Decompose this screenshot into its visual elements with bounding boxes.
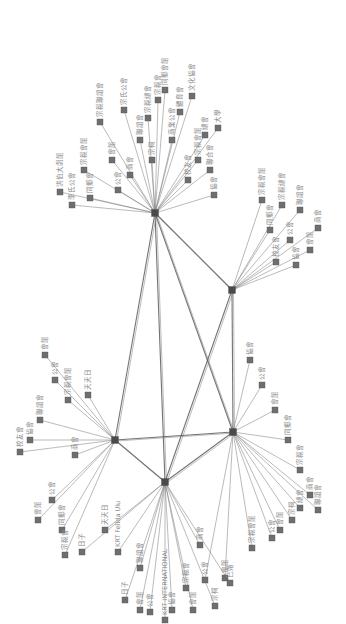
edge: [232, 262, 276, 290]
node[interactable]: [122, 597, 128, 603]
node-label: 會館: [188, 591, 197, 605]
node[interactable]: [57, 189, 63, 195]
node[interactable]: [289, 517, 295, 523]
node[interactable]: [293, 262, 299, 268]
node[interactable]: [185, 177, 191, 183]
node[interactable]: [259, 382, 265, 388]
node[interactable]: [121, 107, 127, 113]
node[interactable]: [202, 132, 208, 138]
node-label: 會館: [33, 501, 42, 515]
node[interactable]: [147, 609, 153, 615]
node[interactable]: [269, 535, 275, 541]
node[interactable]: [69, 202, 75, 208]
node[interactable]: [272, 407, 278, 413]
node[interactable]: [162, 87, 168, 93]
node[interactable]: [137, 607, 143, 613]
node[interactable]: [149, 157, 155, 163]
node[interactable]: [297, 467, 303, 473]
node-label: 文化協會: [187, 63, 196, 91]
node[interactable]: [65, 397, 71, 403]
node[interactable]: [52, 377, 58, 383]
node-label: 校友會: [271, 236, 280, 257]
node[interactable]: [102, 527, 108, 533]
node[interactable]: [190, 607, 196, 613]
node[interactable]: [37, 417, 43, 423]
node[interactable]: [62, 552, 68, 558]
node[interactable]: [249, 545, 255, 551]
node[interactable]: [215, 125, 221, 131]
node[interactable]: [197, 542, 203, 548]
node[interactable]: [307, 247, 313, 253]
hub-node[interactable]: [162, 479, 169, 486]
node[interactable]: [211, 192, 217, 198]
node[interactable]: [307, 492, 313, 498]
node[interactable]: [145, 115, 151, 121]
node-label: 商會: [305, 476, 314, 490]
node[interactable]: [72, 452, 78, 458]
hub-node[interactable]: [230, 429, 237, 436]
node-label: 校友會: [183, 154, 192, 175]
node[interactable]: [267, 227, 273, 233]
hub-node[interactable]: [229, 287, 236, 294]
node[interactable]: [297, 207, 303, 213]
hub-node[interactable]: [152, 210, 159, 217]
node[interactable]: [115, 187, 121, 193]
node[interactable]: [162, 617, 168, 623]
node[interactable]: [183, 585, 189, 591]
node[interactable]: [85, 392, 91, 398]
node[interactable]: [273, 259, 279, 265]
node[interactable]: [227, 580, 233, 586]
edge: [165, 482, 215, 606]
node-label: 日子: [78, 533, 86, 547]
node-label: 協會: [245, 341, 254, 355]
labels-layer: 洪伯大劇館李氏公會宗親會館同鄉會宗親聯誼會會館公會宗氏公會商會聯誼會宗親總會宗祠…: [15, 57, 322, 615]
node-label: 天天日: [84, 369, 92, 390]
node[interactable]: [87, 195, 93, 201]
node[interactable]: [207, 167, 213, 173]
edge: [88, 395, 115, 440]
node-label: 校友會: [15, 426, 24, 447]
node-label: 聯合會: [205, 144, 214, 165]
hub-link-edge: [117, 214, 157, 441]
node[interactable]: [315, 507, 321, 513]
node-label: 聯誼會: [295, 184, 304, 205]
node-label: KRT Felida Ulu: [114, 501, 122, 547]
node[interactable]: [277, 527, 283, 533]
hub-link-edge: [115, 432, 233, 440]
edge: [232, 265, 296, 290]
node[interactable]: [155, 97, 161, 103]
node[interactable]: [285, 437, 291, 443]
node[interactable]: [259, 197, 265, 203]
node[interactable]: [315, 225, 321, 231]
node[interactable]: [97, 119, 103, 125]
node[interactable]: [127, 172, 133, 178]
hub-node[interactable]: [112, 437, 119, 444]
node[interactable]: [42, 352, 48, 358]
node[interactable]: [195, 157, 201, 163]
node-label: 商會: [195, 526, 204, 540]
node-label: 宗親會: [295, 444, 304, 465]
node[interactable]: [137, 137, 143, 143]
node[interactable]: [49, 497, 55, 503]
node[interactable]: [137, 565, 143, 571]
node[interactable]: [115, 549, 121, 555]
node[interactable]: [27, 437, 33, 443]
node[interactable]: [17, 449, 23, 455]
node[interactable]: [287, 237, 293, 243]
node-label: 商會: [125, 156, 134, 170]
node[interactable]: [297, 505, 303, 511]
node[interactable]: [109, 157, 115, 163]
node[interactable]: [169, 137, 175, 143]
node[interactable]: [202, 577, 208, 583]
node[interactable]: [79, 549, 85, 555]
node[interactable]: [189, 93, 195, 99]
node[interactable]: [35, 517, 41, 523]
hub-link-edge: [115, 213, 155, 440]
node-label: 聯誼會: [35, 394, 44, 415]
node[interactable]: [212, 603, 218, 609]
hub-link-edge: [157, 214, 234, 291]
node[interactable]: [177, 109, 183, 115]
node[interactable]: [169, 607, 175, 613]
node[interactable]: [247, 357, 253, 363]
node[interactable]: [279, 202, 285, 208]
